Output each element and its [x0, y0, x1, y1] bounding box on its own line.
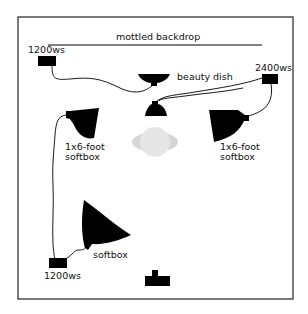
softbox-left-icon	[66, 108, 99, 138]
beauty-dish-label: beauty dish	[177, 71, 233, 82]
softbox-right-label-line2: softbox	[220, 151, 255, 162]
pack-bottom-left-label: 1200ws	[44, 270, 81, 281]
hair-light-icon	[145, 101, 167, 116]
cable	[159, 88, 243, 101]
power-pack-icon	[262, 74, 278, 84]
pack-top-right-label: 2400ws	[255, 62, 292, 73]
cable	[67, 247, 86, 258]
backdrop-label: mottled backdrop	[116, 31, 200, 42]
softbox-front-label: softbox	[93, 249, 128, 260]
softbox-front-icon	[82, 200, 131, 250]
softbox-left-label-line2: softbox	[65, 151, 100, 162]
power-pack-icon	[38, 56, 56, 66]
cable	[248, 84, 272, 116]
pack-top-left-label: 1200ws	[28, 44, 65, 55]
power-pack-icon	[49, 258, 67, 268]
subject-head	[140, 127, 170, 157]
cable	[52, 66, 153, 92]
beauty-dish-icon	[138, 74, 170, 86]
softbox-right-icon	[209, 110, 249, 142]
camera-icon	[145, 270, 170, 286]
diagram-canvas: mottled backdrop 1200ws beauty dish 2400…	[0, 0, 308, 314]
cable	[53, 115, 66, 262]
lighting-diagram: mottled backdrop 1200ws beauty dish 2400…	[0, 0, 308, 314]
